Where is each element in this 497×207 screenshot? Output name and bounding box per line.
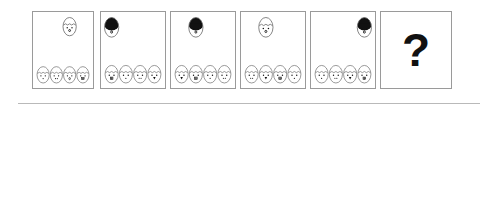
small-egg [175, 65, 188, 83]
scene-canvas [241, 12, 305, 88]
question-mark: ? [381, 12, 451, 88]
big-egg [357, 17, 372, 37]
sequence-panel [310, 11, 376, 89]
sequence-panel [100, 11, 166, 89]
small-egg [189, 65, 202, 83]
sequence-panel [170, 11, 236, 89]
small-egg [50, 67, 62, 83]
scene-canvas [33, 12, 93, 88]
small-egg [329, 65, 342, 83]
options-row: ABCDE [0, 110, 497, 207]
small-egg [274, 65, 287, 83]
sequence-panel [32, 11, 94, 89]
small-egg [358, 65, 371, 83]
big-egg [259, 18, 273, 38]
small-egg [218, 65, 231, 83]
sequence-panel-question: ? [380, 11, 452, 89]
panel-scene [311, 12, 375, 88]
scene-canvas [311, 12, 375, 88]
small-egg [245, 65, 258, 83]
big-egg [104, 17, 119, 37]
panel-scene [241, 12, 305, 88]
small-egg [77, 67, 89, 83]
sequence-row: ? [0, 0, 497, 96]
panel-scene [171, 12, 235, 88]
panel-scene [101, 12, 165, 88]
section-divider [18, 103, 480, 104]
scene-canvas [171, 12, 235, 88]
small-egg [134, 65, 147, 83]
small-egg [105, 65, 118, 83]
puzzle-container: ? ABCDE [0, 0, 497, 207]
panel-scene [33, 12, 93, 88]
small-egg [64, 67, 76, 83]
small-egg [37, 67, 49, 83]
big-egg [189, 17, 204, 37]
small-egg [204, 65, 217, 83]
small-egg [344, 65, 357, 83]
small-egg [288, 65, 301, 83]
small-egg [259, 65, 272, 83]
small-egg [119, 65, 132, 83]
sequence-panel [240, 11, 306, 89]
small-egg [315, 65, 328, 83]
big-egg [63, 18, 76, 36]
small-egg [148, 65, 161, 83]
scene-canvas [101, 12, 165, 88]
